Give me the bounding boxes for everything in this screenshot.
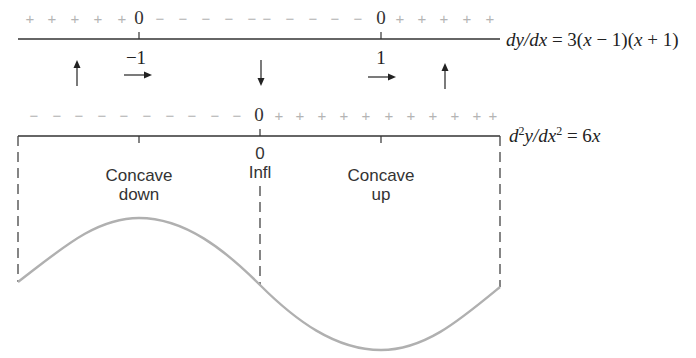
plus-sign: + <box>118 11 127 26</box>
plus-sign: + <box>451 108 460 123</box>
region-concave-up: Concave up <box>347 166 414 204</box>
minus-sign: − <box>188 108 197 123</box>
minus-sign: − <box>331 11 340 26</box>
arrow-down-icon <box>258 60 265 86</box>
minus-sign: − <box>30 108 39 123</box>
minus-sign: − <box>156 11 165 26</box>
zero-at-origin: 0 <box>254 105 264 124</box>
critical-point-one: 1 <box>376 48 386 67</box>
region-label-line2: up <box>347 185 414 204</box>
cubic-curve <box>18 218 500 350</box>
plus-sign: + <box>94 11 103 26</box>
formula-x: x <box>583 29 591 50</box>
plus-sign: + <box>463 11 472 26</box>
minus-sign: − <box>202 11 211 26</box>
minus-sign: − <box>53 108 62 123</box>
formula-eq: = 3( <box>547 29 583 50</box>
inflection-label: Infl <box>249 163 272 182</box>
minus-sign: − <box>354 11 363 26</box>
plus-sign: + <box>489 108 498 123</box>
minus-sign: − <box>211 108 220 123</box>
plus-sign: + <box>362 108 371 123</box>
plus-sign: + <box>71 11 80 26</box>
formula-rhs: = 6 <box>562 125 592 146</box>
minus-sign: − <box>166 108 175 123</box>
minus-sign: − <box>309 11 318 26</box>
formula-x: x <box>592 125 600 146</box>
minus-sign: − <box>225 11 234 26</box>
plus-sign: + <box>407 108 416 123</box>
plus-sign: + <box>429 108 438 123</box>
plus-sign: + <box>440 11 449 26</box>
plus-sign: + <box>296 108 305 123</box>
plus-sign: + <box>473 108 482 123</box>
plus-sign: + <box>340 108 349 123</box>
critical-point-minus-one: −1 <box>126 48 146 67</box>
formula-dx: dx <box>538 125 556 146</box>
minus-sign: − <box>248 11 257 26</box>
arrow-right-icon <box>368 74 396 81</box>
minus-sign: − <box>286 11 295 26</box>
region-label-line2: down <box>105 185 172 204</box>
formula-d: d <box>509 125 519 146</box>
formula-y: y/ <box>525 125 539 146</box>
minus-sign: − <box>233 108 242 123</box>
plus-sign: + <box>396 11 405 26</box>
minus-sign: − <box>143 108 152 123</box>
plus-sign: + <box>385 108 394 123</box>
zero-at-minus-one: 0 <box>134 8 144 27</box>
formula-minus-one: − 1)( <box>592 29 634 50</box>
formula-plus-one: + 1) <box>642 29 678 50</box>
minus-sign: − <box>75 108 84 123</box>
region-label-line1: Concave <box>105 166 172 185</box>
region-label-line1: Concave <box>347 166 414 185</box>
plus-sign: + <box>26 11 35 26</box>
plus-sign: + <box>418 11 427 26</box>
zero-at-one: 0 <box>376 8 386 27</box>
minus-sign: − <box>120 108 129 123</box>
minus-sign: − <box>263 11 272 26</box>
plus-sign: + <box>275 108 284 123</box>
arrow-right-icon <box>124 72 152 79</box>
formula-lhs: dy/dx <box>506 29 547 50</box>
plus-sign: + <box>318 108 327 123</box>
arrow-up-icon <box>442 63 449 89</box>
inflection-value: 0 <box>255 144 264 163</box>
d2ydx2-formula: d2y/dx2 = 6x <box>509 122 600 145</box>
plus-sign: + <box>486 11 495 26</box>
minus-sign: − <box>98 108 107 123</box>
dydx-formula: dy/dx = 3(x − 1)(x + 1) <box>506 30 679 49</box>
region-concave-down: Concave down <box>105 166 172 204</box>
arrow-up-icon <box>74 60 81 86</box>
minus-sign: − <box>179 11 188 26</box>
plus-sign: + <box>48 11 57 26</box>
